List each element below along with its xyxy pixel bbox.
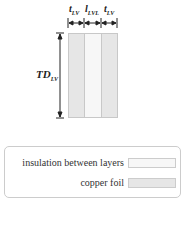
legend-label: copper foil	[80, 177, 124, 188]
legend: insulation between layers copper foil	[4, 146, 181, 198]
legend-label: insulation between layers	[22, 157, 124, 168]
legend-swatch	[128, 178, 176, 188]
copper-foil-right	[101, 33, 118, 118]
copper-foil-left	[68, 33, 85, 118]
insulation-layer	[84, 33, 102, 118]
legend-item-insulation: insulation between layers	[22, 157, 176, 168]
legend-item-copper: copper foil	[80, 177, 176, 188]
legend-swatch	[128, 158, 176, 168]
